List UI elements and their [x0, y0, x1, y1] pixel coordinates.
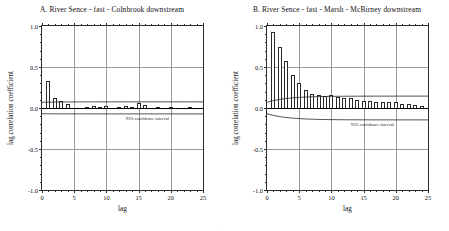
x-minor-tick-top	[325, 24, 326, 26]
y-tick	[39, 26, 42, 27]
x-tick-label: 10	[103, 194, 109, 201]
x-minor-tick	[402, 190, 403, 192]
y-tick-label: 0.0	[255, 105, 263, 112]
x-minor-tick	[312, 190, 313, 192]
y-minor-tick	[265, 100, 267, 101]
figure-canvas: A. River Sence - fast - Colnbrook downst…	[0, 0, 449, 231]
x-minor-tick-top	[151, 24, 152, 26]
x-minor-tick	[197, 190, 198, 192]
x-minor-tick	[184, 190, 185, 192]
x-tick-label: 5	[73, 194, 76, 201]
x-minor-tick-top	[402, 24, 403, 26]
x-minor-tick	[145, 190, 146, 192]
x-minor-tick-top	[87, 24, 88, 26]
y-minor-tick	[265, 124, 267, 125]
y-minor-tick	[40, 51, 42, 52]
y-minor-tick	[40, 165, 42, 166]
y-minor-tick	[265, 157, 267, 158]
x-tick	[299, 190, 300, 193]
y-minor-tick	[40, 42, 42, 43]
x-minor-tick	[376, 190, 377, 192]
x-minor-tick	[357, 190, 358, 192]
y-minor-tick	[265, 59, 267, 60]
y-minor-tick	[40, 133, 42, 134]
x-minor-tick	[409, 190, 410, 192]
x-minor-tick	[351, 190, 352, 192]
x-minor-tick-top	[190, 24, 191, 26]
x-minor-tick	[338, 190, 339, 192]
x-tick	[428, 190, 429, 193]
y-tick	[264, 67, 267, 68]
x-minor-tick-top	[280, 24, 281, 26]
x-minor-tick	[280, 190, 281, 192]
confidence-interval-curves	[267, 26, 428, 190]
x-minor-tick-top	[61, 24, 62, 26]
y-minor-tick	[40, 116, 42, 117]
y-minor-tick	[265, 34, 267, 35]
x-minor-tick	[94, 190, 95, 192]
y-minor-tick	[40, 124, 42, 125]
y-tick-label: -1.0	[28, 187, 38, 194]
panel-b-x-axis-title: lag	[266, 205, 429, 213]
x-tick-label: 5	[298, 194, 301, 201]
y-minor-tick	[40, 34, 42, 35]
x-tick-top	[106, 23, 107, 26]
y-tick-label: -0.5	[253, 146, 263, 153]
x-tick	[74, 190, 75, 193]
x-minor-tick-top	[197, 24, 198, 26]
y-minor-tick	[265, 51, 267, 52]
x-tick-top	[139, 23, 140, 26]
x-tick-top	[171, 23, 172, 26]
x-tick	[267, 190, 268, 193]
y-minor-tick	[265, 83, 267, 84]
x-minor-tick-top	[312, 24, 313, 26]
x-minor-tick-top	[119, 24, 120, 26]
footer-mark: .	[223, 222, 224, 227]
x-tick	[106, 190, 107, 193]
y-minor-tick	[40, 174, 42, 175]
x-tick-label: 25	[425, 194, 431, 201]
x-minor-tick-top	[293, 24, 294, 26]
x-minor-tick	[55, 190, 56, 192]
x-minor-tick-top	[55, 24, 56, 26]
x-tick	[42, 190, 43, 193]
confidence-interval-curves	[42, 26, 203, 190]
ci-annotation-label: 95% confidence interval	[351, 122, 394, 127]
x-minor-tick	[273, 190, 274, 192]
panel-a: A. River Sence - fast - Colnbrook downst…	[0, 0, 224, 231]
y-tick-label: 1.0	[255, 23, 263, 30]
y-tick-label: -1.0	[253, 187, 263, 194]
x-minor-tick-top	[132, 24, 133, 26]
x-minor-tick-top	[184, 24, 185, 26]
y-minor-tick	[40, 92, 42, 93]
x-tick-label: 15	[360, 194, 366, 201]
x-minor-tick	[319, 190, 320, 192]
x-minor-tick	[177, 190, 178, 192]
x-minor-tick-top	[389, 24, 390, 26]
x-minor-tick	[100, 190, 101, 192]
x-minor-tick	[190, 190, 191, 192]
y-minor-tick	[265, 165, 267, 166]
x-tick-top	[396, 23, 397, 26]
x-minor-tick	[48, 190, 49, 192]
x-minor-tick-top	[81, 24, 82, 26]
x-minor-tick-top	[344, 24, 345, 26]
x-minor-tick	[113, 190, 114, 192]
panel-a-title: A. River Sence - fast - Colnbrook downst…	[0, 5, 224, 14]
ci-upper-curve	[267, 96, 428, 102]
x-tick	[139, 190, 140, 193]
y-minor-tick	[265, 133, 267, 134]
x-minor-tick-top	[383, 24, 384, 26]
x-minor-tick-top	[48, 24, 49, 26]
x-minor-tick-top	[113, 24, 114, 26]
x-tick-top	[74, 23, 75, 26]
x-minor-tick	[126, 190, 127, 192]
x-tick-label: 20	[393, 194, 399, 201]
x-minor-tick-top	[409, 24, 410, 26]
x-minor-tick-top	[273, 24, 274, 26]
y-minor-tick	[40, 100, 42, 101]
y-tick-label: 0.5	[30, 64, 38, 71]
x-minor-tick	[344, 190, 345, 192]
panel-a-y-axis-title: lag correlation coefficient	[5, 25, 17, 191]
x-tick	[331, 190, 332, 193]
